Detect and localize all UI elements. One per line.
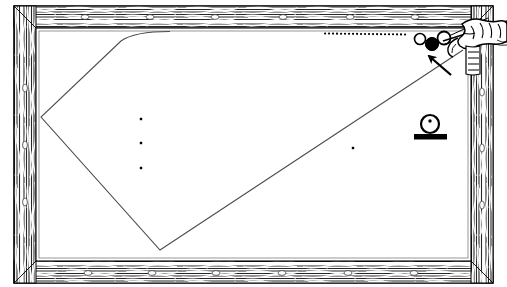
key-ball-circle: [421, 115, 439, 133]
spot-middle: [140, 142, 142, 144]
billiard-diagram: [0, 0, 507, 287]
key-rail-bar: [414, 134, 447, 140]
spot-right: [352, 147, 354, 149]
object-ball-open-1: [415, 34, 426, 45]
spot-lower: [140, 167, 142, 169]
object-ball-solid: [425, 37, 438, 50]
diagram-canvas: [0, 0, 507, 287]
table-frame: [14, 6, 493, 283]
key-ball-center-dot: [428, 119, 431, 122]
spot-upper: [140, 118, 142, 120]
cloth-surface: [39, 31, 468, 258]
